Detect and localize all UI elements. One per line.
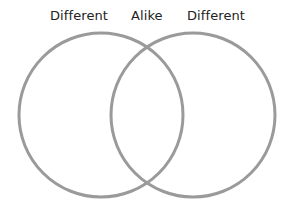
venn-diagram <box>0 0 291 209</box>
left-circle <box>19 33 183 197</box>
right-circle <box>111 33 275 197</box>
